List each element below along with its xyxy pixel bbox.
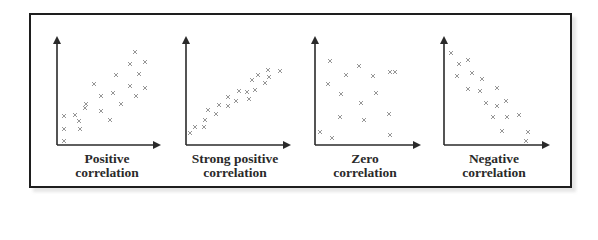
negative-data-point-x-icon — [517, 113, 521, 117]
positive-data-point-x-icon — [119, 102, 123, 106]
negative-data-point-x-icon — [504, 99, 508, 103]
positive-data-point-x-icon — [99, 94, 103, 98]
zero-data-point-x-icon — [339, 92, 343, 96]
label-positive-line1: Positive — [42, 152, 172, 166]
zero-data-point-x-icon — [330, 136, 334, 140]
strong-positive-data-point-x-icon — [266, 68, 270, 72]
zero-data-point-x-icon — [393, 70, 397, 74]
strong-positive-data-point-x-icon — [214, 112, 218, 116]
strong-positive-data-point-x-icon — [278, 69, 282, 73]
positive-data-point-x-icon — [78, 127, 82, 131]
negative-data-point-x-icon — [495, 86, 499, 90]
negative-data-point-x-icon — [449, 51, 453, 55]
zero-data-point-x-icon — [344, 73, 348, 77]
positive-data-point-x-icon — [62, 114, 66, 118]
label-negative: Negative correlation — [429, 152, 559, 180]
zero-data-point-x-icon — [328, 59, 332, 63]
negative-data-point-x-icon — [491, 115, 495, 119]
negative-data-point-x-icon — [480, 77, 484, 81]
strong-positive-data-point-x-icon — [256, 73, 260, 77]
label-negative-line2: correlation — [429, 166, 559, 180]
strong-positive-data-point-x-icon — [226, 95, 230, 99]
negative-data-point-x-icon — [505, 115, 509, 119]
positive-data-point-x-icon — [84, 102, 88, 106]
zero-data-point-x-icon — [388, 70, 392, 74]
strong-positive-data-point-x-icon — [237, 89, 241, 93]
zero-data-point-x-icon — [359, 101, 363, 105]
strong-positive-data-point-x-icon — [253, 88, 257, 92]
strong-positive-data-point-x-icon — [250, 78, 254, 82]
label-positive: Positive correlation — [42, 152, 172, 180]
negative-data-point-x-icon — [495, 104, 499, 108]
strong-positive-data-point-x-icon — [234, 99, 238, 103]
strong-positive-data-point-x-icon — [193, 125, 197, 129]
label-strong-positive-line2: correlation — [170, 166, 300, 180]
positive-data-point-x-icon — [73, 113, 77, 117]
positive-data-point-x-icon — [143, 86, 147, 90]
label-zero-line2: correlation — [300, 166, 430, 180]
zero-data-point-x-icon — [362, 118, 366, 122]
negative-data-point-x-icon — [500, 129, 504, 133]
zero-data-point-x-icon — [338, 115, 342, 119]
zero-data-point-x-icon — [371, 74, 375, 78]
strong-positive-data-point-x-icon — [206, 108, 210, 112]
strong-positive-data-point-x-icon — [267, 75, 271, 79]
positive-data-point-x-icon — [62, 139, 66, 143]
zero-data-point-x-icon — [318, 130, 322, 134]
label-positive-line2: correlation — [42, 166, 172, 180]
strong-positive-data-point-x-icon — [188, 131, 192, 135]
negative-data-point-x-icon — [470, 71, 474, 75]
positive-data-point-x-icon — [133, 50, 137, 54]
positive-data-point-x-icon — [137, 72, 141, 76]
label-zero: Zero correlation — [300, 152, 430, 180]
negative-data-point-x-icon — [478, 89, 482, 93]
positive-data-point-x-icon — [77, 119, 81, 123]
negative-data-point-x-icon — [524, 139, 528, 143]
zero-data-point-x-icon — [326, 82, 330, 86]
strong-positive-data-point-x-icon — [263, 81, 267, 85]
positive-data-point-x-icon — [128, 62, 132, 66]
positive-data-point-x-icon — [111, 91, 115, 95]
positive-data-point-x-icon — [143, 60, 147, 64]
strong-positive-data-point-x-icon — [203, 118, 207, 122]
positive-data-point-x-icon — [128, 84, 132, 88]
label-strong-positive-line1: Strong positive — [170, 152, 300, 166]
zero-data-point-x-icon — [357, 64, 361, 68]
zero-data-point-x-icon — [387, 112, 391, 116]
negative-data-point-x-icon — [466, 87, 470, 91]
negative-data-point-x-icon — [455, 74, 459, 78]
positive-data-point-x-icon — [92, 82, 96, 86]
label-zero-line1: Zero — [300, 152, 430, 166]
positive-data-point-x-icon — [134, 94, 138, 98]
label-strong-positive: Strong positive correlation — [170, 152, 300, 180]
positive-data-point-x-icon — [99, 109, 103, 113]
strong-positive-data-point-x-icon — [202, 125, 206, 129]
zero-data-point-x-icon — [374, 91, 378, 95]
zero-data-point-x-icon — [388, 133, 392, 137]
negative-data-point-x-icon — [466, 58, 470, 62]
strong-positive-data-point-x-icon — [217, 103, 221, 107]
positive-data-point-x-icon — [83, 106, 87, 110]
strong-positive-data-point-x-icon — [226, 104, 230, 108]
negative-data-point-x-icon — [484, 101, 488, 105]
positive-data-point-x-icon — [108, 118, 112, 122]
positive-data-point-x-icon — [62, 127, 66, 131]
negative-data-point-x-icon — [457, 62, 461, 66]
strong-positive-data-point-x-icon — [247, 97, 251, 101]
negative-data-point-x-icon — [526, 130, 530, 134]
positive-data-point-x-icon — [114, 73, 118, 77]
label-negative-line1: Negative — [429, 152, 559, 166]
strong-positive-data-point-x-icon — [245, 90, 249, 94]
